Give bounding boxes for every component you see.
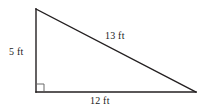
right-triangle-figure: 5 ft 13 ft 12 ft: [0, 0, 205, 110]
hypotenuse-line: [36, 9, 196, 92]
triangle-drawing: [0, 0, 205, 110]
hypotenuse-label: 13 ft: [105, 30, 125, 41]
right-angle-marker-icon: [37, 84, 44, 91]
horizontal-leg-label: 12 ft: [90, 95, 110, 106]
vertical-leg-label: 5 ft: [9, 46, 23, 57]
